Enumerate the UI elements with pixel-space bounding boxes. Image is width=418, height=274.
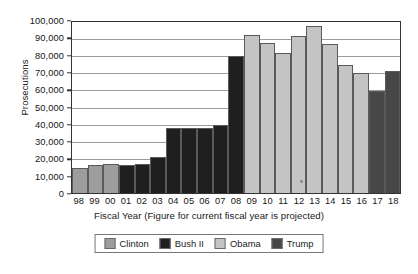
- legend-label: Obama: [230, 238, 261, 249]
- bar[interactable]: [306, 26, 322, 193]
- x-tick-label: 11: [275, 196, 291, 206]
- scan-artifact-speck: [300, 180, 303, 183]
- bar[interactable]: [244, 35, 260, 193]
- x-tick-label: 00: [102, 196, 118, 206]
- bar[interactable]: [150, 157, 166, 193]
- bar-slot: [228, 22, 244, 193]
- bar-slot: [197, 22, 213, 193]
- bar[interactable]: [322, 44, 338, 193]
- legend-label: Bush II: [175, 238, 204, 249]
- bar[interactable]: [88, 165, 104, 193]
- bar-slot: [103, 22, 119, 193]
- bar[interactable]: [72, 168, 88, 193]
- y-tick-mark: [67, 38, 71, 39]
- bar-slot: [166, 22, 182, 193]
- bar-slot: [244, 22, 260, 193]
- bar[interactable]: [181, 128, 197, 193]
- y-tick-mark: [67, 107, 71, 108]
- x-tick-label: 10: [260, 196, 276, 206]
- y-tick-label: 60,000: [35, 85, 64, 95]
- x-tick-label: 08: [228, 196, 244, 206]
- y-tick-mark: [67, 55, 71, 56]
- y-tick-label: 20,000: [35, 154, 64, 164]
- x-tick-label: 07: [212, 196, 228, 206]
- bar-slot: [385, 22, 401, 193]
- bar-slot: [213, 22, 229, 193]
- y-tick-mark: [67, 89, 71, 90]
- bar-slot: [338, 22, 354, 193]
- y-tick-label: 50,000: [35, 103, 64, 113]
- y-tick-label: 0: [59, 189, 64, 199]
- x-tick-label: 15: [338, 196, 354, 206]
- bar[interactable]: [228, 56, 244, 193]
- plot-area: [71, 21, 401, 194]
- bar[interactable]: [166, 128, 182, 193]
- x-tick-label: 18: [385, 196, 401, 206]
- y-tick-label: 80,000: [35, 51, 64, 61]
- bar[interactable]: [385, 71, 401, 193]
- x-tick-label: 03: [150, 196, 166, 206]
- y-tick-mark: [67, 141, 71, 142]
- x-tick-label: 14: [323, 196, 339, 206]
- y-tick-mark: [67, 193, 71, 194]
- bar[interactable]: [197, 128, 213, 193]
- bar-slot: [119, 22, 135, 193]
- x-tick-label: 01: [118, 196, 134, 206]
- legend-item-obama[interactable]: Obama: [215, 238, 261, 249]
- x-tick-label: 05: [181, 196, 197, 206]
- bar-slot: [150, 22, 166, 193]
- y-tick-label: 30,000: [35, 137, 64, 147]
- bar[interactable]: [135, 164, 151, 193]
- bar-series: [72, 22, 400, 193]
- y-tick-mark: [67, 72, 71, 73]
- bar-slot: [135, 22, 151, 193]
- legend-swatch-icon: [105, 238, 116, 249]
- x-tick-label: 17: [370, 196, 386, 206]
- y-tick-label: 70,000: [35, 68, 64, 78]
- x-axis-title: Fiscal Year (Figure for current fiscal y…: [0, 210, 418, 221]
- x-tick-label: 98: [71, 196, 87, 206]
- bar-slot: [306, 22, 322, 193]
- bar[interactable]: [103, 164, 119, 193]
- legend-item-trump[interactable]: Trump: [272, 238, 314, 249]
- legend-swatch-icon: [215, 238, 226, 249]
- y-tick-label: 40,000: [35, 120, 64, 130]
- y-tick-mark: [67, 176, 71, 177]
- y-tick-label: 10,000: [35, 172, 64, 182]
- bar[interactable]: [353, 73, 369, 193]
- bar[interactable]: [260, 43, 276, 193]
- prosecutions-bar-chart-figure: Prosecutions 010,00020,00030,00040,00050…: [0, 0, 418, 274]
- legend-item-clinton[interactable]: Clinton: [105, 238, 149, 249]
- y-tick-label: 100,000: [30, 16, 64, 26]
- y-tick-label: 90,000: [35, 33, 64, 43]
- bar[interactable]: [291, 36, 307, 193]
- legend-swatch-icon: [272, 238, 283, 249]
- legend-item-bush-ii[interactable]: Bush II: [160, 238, 204, 249]
- x-tick-label: 16: [354, 196, 370, 206]
- y-tick-mark: [67, 159, 71, 160]
- bar-slot: [353, 22, 369, 193]
- bar[interactable]: [369, 91, 385, 193]
- x-tick-label: 09: [244, 196, 260, 206]
- bar[interactable]: [275, 53, 291, 193]
- bar[interactable]: [338, 65, 354, 193]
- bar-slot: [260, 22, 276, 193]
- y-tick-mark: [67, 124, 71, 125]
- chart-legend: ClintonBush IIObamaTrump: [95, 234, 324, 253]
- bar-slot: [181, 22, 197, 193]
- bar[interactable]: [213, 125, 229, 193]
- x-tick-label: 12: [291, 196, 307, 206]
- plot-wrapper: 010,00020,00030,00040,00050,00060,00070,…: [71, 21, 401, 194]
- bar-slot: [322, 22, 338, 193]
- y-axis-title: Prosecutions: [19, 28, 30, 148]
- bar-slot: [369, 22, 385, 193]
- x-tick-label: 99: [87, 196, 103, 206]
- x-tick-label: 13: [307, 196, 323, 206]
- legend-label: Trump: [287, 238, 314, 249]
- bar[interactable]: [119, 165, 135, 193]
- legend-label: Clinton: [120, 238, 149, 249]
- legend-swatch-icon: [160, 238, 171, 249]
- y-tick-mark: [67, 20, 71, 21]
- x-tick-label: 02: [134, 196, 150, 206]
- bar-slot: [291, 22, 307, 193]
